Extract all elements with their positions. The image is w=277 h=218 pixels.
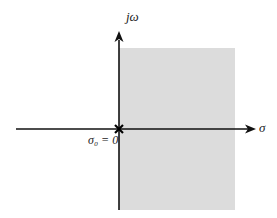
s-plane-diagram [0,0,277,218]
origin-label: σ₀ = 0 [88,133,118,148]
sigma-axis-label: σ [259,120,265,136]
jw-axis-label: jω [126,9,139,25]
